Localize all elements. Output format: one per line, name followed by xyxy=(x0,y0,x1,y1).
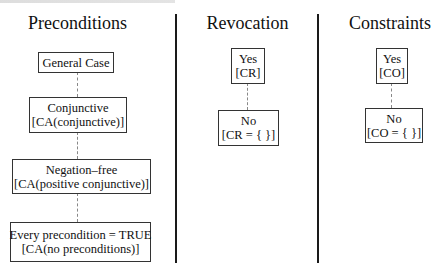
divider-left xyxy=(175,14,177,263)
node-label: Every precondition = TRUE xyxy=(10,228,152,242)
node-sublabel: [CO = { }] xyxy=(367,126,421,140)
node-label: Conjunctive xyxy=(47,101,108,115)
constraints-title: Constraints xyxy=(345,13,435,33)
connector-negation-free-every-precondition xyxy=(77,193,78,222)
node-every-precondition-true: Every precondition = TRUE [CA(no precond… xyxy=(10,222,151,262)
node-label: General Case xyxy=(43,56,110,70)
preconditions-title: Preconditions xyxy=(20,13,135,33)
connector-constraints-yes-no xyxy=(391,83,392,108)
node-label: Yes xyxy=(239,52,257,66)
node-label: Yes xyxy=(383,52,401,66)
node-label: Negation–free xyxy=(46,163,118,177)
connector-general-conjunctive xyxy=(77,72,78,97)
node-constraints-no: No [CO = { }] xyxy=(365,108,423,143)
node-sublabel: [CR = { }] xyxy=(222,128,275,142)
node-revocation-yes: Yes [CR] xyxy=(231,48,265,84)
node-general-case: General Case xyxy=(38,52,114,73)
node-sublabel: [CA(conjunctive)] xyxy=(32,115,124,129)
node-conjunctive: Conjunctive [CA(conjunctive)] xyxy=(29,97,127,133)
node-sublabel: [CR] xyxy=(236,66,261,80)
connector-revocation-yes-no xyxy=(247,83,248,110)
node-label: No xyxy=(386,112,401,126)
node-sublabel: [CA(positive conjunctive)] xyxy=(14,177,149,191)
node-sublabel: [CA(no preconditions)] xyxy=(22,242,140,256)
connector-conjunctive-negation-free xyxy=(77,132,78,159)
node-negation-free: Negation–free [CA(positive conjunctive)] xyxy=(12,159,151,194)
cropped-caption-strip xyxy=(0,0,175,3)
node-label: No xyxy=(241,114,256,128)
node-revocation-no: No [CR = { }] xyxy=(218,110,279,146)
revocation-title: Revocation xyxy=(200,13,295,33)
node-sublabel: [CO] xyxy=(379,66,405,80)
node-constraints-yes: Yes [CO] xyxy=(376,48,408,84)
divider-right xyxy=(317,14,319,263)
